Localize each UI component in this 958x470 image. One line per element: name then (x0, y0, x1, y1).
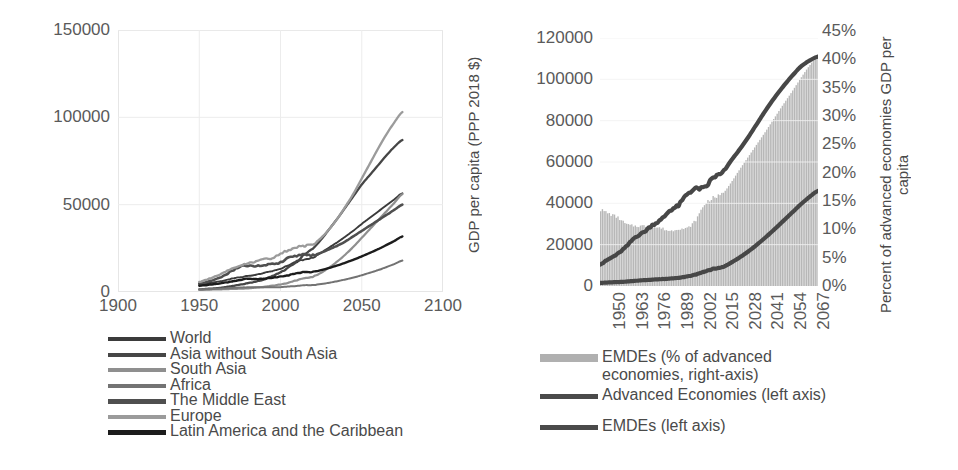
legend-item[interactable]: EMDEs (% of advanced economies, right-ax… (540, 348, 930, 385)
y2-tick: 20% (822, 163, 856, 183)
legend-swatch (108, 384, 166, 388)
legend-label: EMDEs (% of advanced economies, right-ax… (602, 348, 772, 385)
right-chart-y-axis-title: GDP per capita (PPP 2018 $) (466, 20, 490, 290)
y2-tick: 35% (822, 78, 856, 98)
x-tick: 1950 (180, 296, 218, 316)
legend-swatch (108, 337, 166, 341)
x-tick: 1963 (633, 292, 653, 330)
y-tick: 120000 (536, 28, 593, 48)
left-x-axis-ticks: 1900 1950 2000 2050 2100 (118, 296, 443, 326)
y2-tick: 5% (822, 248, 847, 268)
y-tick: 80000 (546, 111, 593, 131)
legend-label: Latin America and the Caribbean (170, 423, 403, 440)
right-chart-legend: EMDEs (% of advanced economies, right-ax… (540, 348, 930, 434)
legend-swatch (108, 430, 166, 435)
y2-tick: 25% (822, 134, 856, 154)
left-chart-panel: 150000 100000 50000 0 1900 1950 2000 205… (0, 0, 470, 470)
x-tick: 1900 (99, 296, 137, 316)
x-tick: 2000 (262, 296, 300, 316)
x-tick: 2041 (768, 292, 788, 330)
legend-swatch (540, 425, 598, 430)
right-plot-area (600, 38, 818, 286)
y-tick: 0 (584, 276, 593, 296)
y-tick: 150000 (53, 20, 110, 40)
legend-item[interactable]: Asia without South Asia (108, 346, 468, 362)
legend-item[interactable]: EMDEs (left axis) (540, 418, 930, 435)
x-tick: 1950 (610, 292, 630, 330)
x-tick: 1989 (678, 292, 698, 330)
legend-swatch (108, 415, 166, 419)
legend-label: Advanced Economies (left axis) (602, 387, 826, 404)
x-tick: 2028 (746, 292, 766, 330)
y2-tick: 45% (822, 21, 856, 41)
x-tick: 2067 (814, 292, 834, 330)
legend-item[interactable]: World (108, 330, 468, 346)
left-plot-svg (118, 30, 443, 292)
y2-tick: 10% (822, 219, 856, 239)
right-plot-svg (600, 38, 818, 286)
right-x-axis-ticks: 1950 1963 1976 1989 2002 2015 2028 2041 … (600, 292, 818, 352)
left-chart-legend: World Asia without South Asia South Asia… (108, 330, 468, 439)
figure-root: 150000 100000 50000 0 1900 1950 2000 205… (0, 0, 958, 470)
right-secondary-axis-ticks: 45% 40% 35% 30% 25% 20% 15% 10% 5% 0% (822, 0, 882, 300)
legend-swatch (108, 368, 166, 372)
legend-swatch (540, 394, 598, 399)
y2-tick: 30% (822, 106, 856, 126)
y-tick: 100000 (53, 107, 110, 127)
legend-swatch (108, 399, 166, 404)
y-tick: 40000 (546, 193, 593, 213)
legend-swatch-bar (540, 354, 598, 362)
x-tick: 2100 (424, 296, 462, 316)
x-tick: 2002 (701, 292, 721, 330)
y-tick: 20000 (546, 235, 593, 255)
legend-item[interactable]: Africa (108, 377, 468, 393)
x-tick: 2054 (791, 292, 811, 330)
left-plot-area (118, 30, 443, 292)
left-y-axis-ticks: 150000 100000 50000 0 (0, 0, 110, 300)
y-tick: 50000 (63, 195, 110, 215)
legend-item[interactable]: Europe (108, 408, 468, 424)
y-tick: 100000 (536, 69, 593, 89)
y-tick: 60000 (546, 152, 593, 172)
x-tick: 2050 (343, 296, 381, 316)
right-chart-y2-axis-title: Percent of advanced economies GDP per ca… (878, 20, 922, 330)
legend-item[interactable]: South Asia (108, 361, 468, 377)
legend-item[interactable]: Latin America and the Caribbean (108, 423, 468, 439)
y2-tick: 40% (822, 49, 856, 69)
x-tick: 1976 (655, 292, 675, 330)
legend-swatch (108, 353, 166, 357)
x-tick: 2015 (723, 292, 743, 330)
right-y-axis-ticks: 120000 100000 80000 60000 40000 20000 0 (488, 0, 593, 300)
legend-label: EMDEs (left axis) (602, 418, 726, 435)
right-chart-panel: GDP per capita (PPP 2018 $) 120000 10000… (470, 0, 958, 470)
y2-tick: 15% (822, 191, 856, 211)
legend-item[interactable]: Advanced Economies (left axis) (540, 387, 930, 404)
legend-item[interactable]: The Middle East (108, 392, 468, 408)
